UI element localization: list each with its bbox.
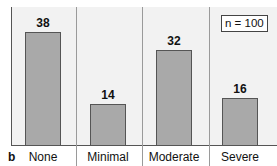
bar-moderate	[156, 50, 192, 146]
category-divider	[209, 7, 210, 166]
category-divider	[76, 7, 77, 166]
value-label-none: 38	[23, 16, 63, 30]
bar-none	[25, 32, 61, 146]
category-label-none: None	[10, 150, 76, 164]
category-label-severe: Severe	[207, 150, 273, 164]
value-label-minimal: 14	[88, 88, 128, 102]
bar-severe	[222, 98, 258, 146]
value-label-severe: 16	[220, 82, 260, 96]
category-label-moderate: Moderate	[141, 150, 207, 164]
category-label-minimal: Minimal	[75, 150, 141, 164]
value-label-moderate: 32	[154, 34, 194, 48]
category-divider	[142, 7, 143, 166]
bar-minimal	[90, 104, 126, 146]
sample-size-annotation: n = 100	[221, 15, 268, 32]
